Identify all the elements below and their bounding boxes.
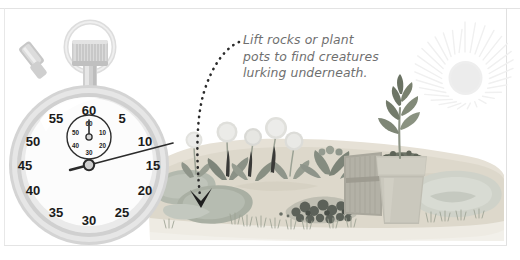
side-plunger	[18, 40, 48, 79]
dial-number-25: 25	[115, 205, 129, 220]
arrowhead-icon	[190, 188, 212, 208]
dial-number-30: 30	[82, 213, 96, 228]
dotted-path	[197, 42, 239, 196]
knurled-crown	[72, 40, 108, 66]
subdial-number-20: 20	[99, 142, 106, 149]
dial-number-35: 35	[49, 205, 63, 220]
dial-number-60: 60	[82, 103, 96, 118]
subdial-number-40: 40	[72, 142, 79, 149]
dial-number-10: 10	[138, 134, 152, 149]
subdial-number-10: 10	[99, 129, 106, 136]
subdial-number-30: 30	[85, 149, 92, 156]
dial-number-40: 40	[26, 183, 40, 198]
dial-number-15: 15	[146, 158, 160, 173]
stopwatch-illustration: 60 5 10 15 20 25 30 35 40 45 50 55 60 10…	[0, 0, 175, 260]
annotation-text: Lift rocks or plant pots to find creatur…	[243, 32, 423, 82]
dial-number-45: 45	[18, 158, 32, 173]
dial-number-55: 55	[49, 111, 63, 126]
subdial-number-50: 50	[72, 129, 79, 136]
dial-number-50: 50	[26, 134, 40, 149]
subdial-number-60: 60	[85, 120, 92, 127]
dial-number-20: 20	[138, 183, 152, 198]
dial-number-5: 5	[118, 111, 125, 126]
illustration-canvas: 60 5 10 15 20 25 30 35 40 45 50 55 60 10…	[0, 0, 520, 260]
